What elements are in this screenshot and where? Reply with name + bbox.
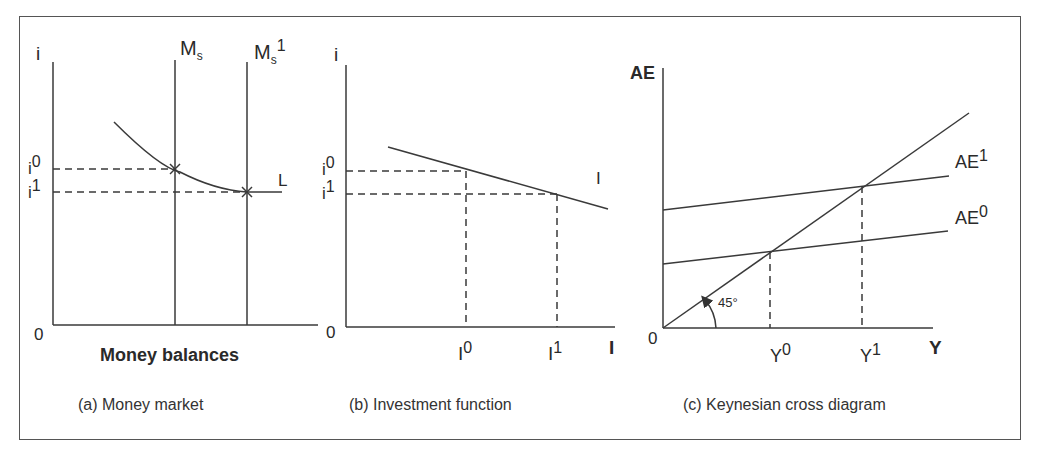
45-degree-line: [663, 113, 969, 328]
panel-c-graph: [663, 68, 969, 328]
panel-c-origin: 0: [648, 330, 657, 347]
investment-line: [388, 147, 608, 209]
caption-b: (b) Investment function: [349, 396, 512, 414]
ae0-label: AE0: [955, 204, 988, 227]
l-curve: [114, 122, 282, 192]
ae-axis-label: AE: [630, 64, 655, 82]
caption-a: (a) Money market: [78, 396, 203, 414]
angle-label: 45°: [718, 296, 738, 309]
ms1-label: Ms1: [254, 38, 286, 66]
panel-b-graph: [346, 65, 615, 327]
l-curve-label: L: [278, 172, 287, 189]
panel-b-y-label: i: [334, 45, 338, 64]
i1-label-b: i1: [322, 179, 335, 202]
i1-label-a: i1: [28, 178, 41, 201]
angle-arc-icon: [705, 300, 716, 328]
panel-b-x-label: I: [609, 338, 614, 357]
i0-label-b: i0: [322, 155, 335, 178]
ms-label: Ms: [180, 38, 203, 62]
panel-c-x-label: Y: [929, 338, 942, 357]
Y0-label: Y0: [770, 342, 791, 365]
panel-a-graph: [53, 60, 318, 325]
I1-label: I1: [548, 340, 562, 363]
ae1-line: [663, 176, 949, 210]
caption-c: (c) Keynesian cross diagram: [683, 396, 886, 414]
panel-a-origin: 0: [34, 326, 43, 343]
ae0-line: [663, 231, 948, 264]
I0-label: I0: [458, 340, 472, 363]
panel-a-y-label: i: [36, 44, 40, 63]
ae1-label: AE1: [955, 148, 988, 171]
money-balances-label: Money balances: [100, 346, 239, 364]
diagram-canvas: [0, 0, 1037, 458]
i0-label-a: i0: [28, 154, 41, 177]
investment-curve-label: I: [596, 170, 601, 187]
panel-b-origin: 0: [326, 324, 335, 341]
Y1-label: Y1: [860, 342, 881, 365]
